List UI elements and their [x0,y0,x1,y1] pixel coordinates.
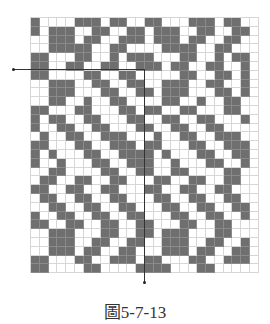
grid-cell [241,229,250,238]
grid-cell [92,115,101,124]
grid-cell [75,53,84,62]
grid-cell [145,185,154,194]
grid-cell [197,203,206,212]
grid-cell [40,132,49,141]
grid-cell [110,194,119,203]
grid-cell [180,132,189,141]
grid-cell [40,176,49,185]
grid-cell [224,27,233,36]
grid-cell [215,264,224,273]
grid-cell [250,176,259,185]
grid-cell [110,264,119,273]
grid-cell [110,150,119,159]
grid-cell [66,27,75,36]
grid-cell [162,238,171,247]
grid-cell [171,36,180,45]
grid-cell [232,44,241,53]
grid-cell [250,53,259,62]
grid-cell [206,44,215,53]
grid-cell [224,159,233,168]
grid-cell [127,115,136,124]
grid-cell [189,97,198,106]
grid-cell [127,247,136,256]
grid-cell [49,88,58,97]
grid-cell [215,194,224,203]
grid-cell [250,220,259,229]
grid-cell [189,159,198,168]
grid-cell [215,159,224,168]
grid-cell [232,194,241,203]
grid-cell [162,71,171,80]
grid-cell [197,141,206,150]
grid-cell [66,36,75,45]
grid-cell [101,124,110,133]
grid-cell [250,185,259,194]
grid-cell [232,71,241,80]
grid-cell [84,88,93,97]
grid-cell [92,80,101,89]
grid-cell [92,27,101,36]
grid-cell [145,36,154,45]
grid-cell [224,256,233,265]
grid-cell [101,220,110,229]
grid-cell [215,229,224,238]
grid-cell [171,238,180,247]
grid-cell [197,106,206,115]
grid-cell [232,176,241,185]
grid-cell [31,159,40,168]
grid-cell [145,124,154,133]
grid-cell [250,168,259,177]
grid-cell [232,185,241,194]
grid-cell [206,36,215,45]
grid-cell [162,185,171,194]
grid-cell [145,80,154,89]
grid-cell [171,203,180,212]
grid-cell [154,176,163,185]
grid-cell [189,203,198,212]
grid-cell [110,229,119,238]
grid-cell [49,115,58,124]
grid-cell [66,124,75,133]
grid-cell [171,80,180,89]
grid-cell [224,88,233,97]
grid-cell [40,115,49,124]
grid-cell [145,106,154,115]
grid-cell [232,264,241,273]
grid-cell [197,36,206,45]
grid-cell [197,88,206,97]
grid-cell [92,194,101,203]
grid-cell [232,229,241,238]
grid-cell [162,150,171,159]
grid-cell [162,247,171,256]
grid-cell [40,168,49,177]
arrow-end-dot-icon [143,281,146,284]
grid-cell [75,18,84,27]
grid-cell [206,62,215,71]
grid-cell [215,80,224,89]
grid-cell [40,44,49,53]
grid-cell [101,194,110,203]
grid-cell [57,256,66,265]
grid-cell [57,229,66,238]
grid-cell [250,256,259,265]
grid-cell [101,203,110,212]
grid-cell [145,168,154,177]
grid-cell [84,203,93,212]
grid-cell [171,71,180,80]
grid-cell [49,229,58,238]
grid-cell [92,229,101,238]
grid-cell [224,18,233,27]
grid-cell [162,159,171,168]
grid-cell [31,80,40,89]
grid-cell [250,247,259,256]
grid-cell [241,62,250,71]
grid-cell [197,132,206,141]
grid-cell [66,238,75,247]
grid-cell [197,18,206,27]
grid-cell [31,71,40,80]
grid-cell [110,203,119,212]
grid-cell [180,80,189,89]
grid-cell [189,247,198,256]
grid-cell [31,27,40,36]
grid-cell [189,132,198,141]
